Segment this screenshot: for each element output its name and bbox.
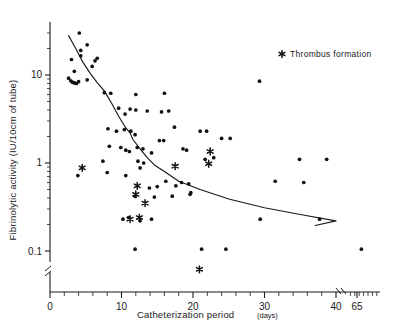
data-point-dot xyxy=(123,112,127,116)
axis-titles: Catheterization period (days) Fibrinolyt… xyxy=(7,80,278,320)
x-tick-label: 40 xyxy=(330,301,342,312)
data-point-dot xyxy=(148,186,152,190)
data-point-dot xyxy=(198,129,202,133)
data-points-asterisks xyxy=(79,148,213,273)
data-point-dot xyxy=(90,65,94,69)
data-point-dot xyxy=(119,146,123,150)
data-point-dot xyxy=(70,58,74,62)
data-point-dot xyxy=(77,31,81,35)
data-point-dot xyxy=(72,69,76,73)
legend-asterisk-marker xyxy=(279,51,285,58)
x-axis-break-icon xyxy=(336,288,346,294)
data-point-dot xyxy=(121,217,125,221)
data-point-dot xyxy=(167,109,171,113)
data-point-dot xyxy=(141,147,145,151)
data-point-dot xyxy=(220,137,224,141)
data-point-dot xyxy=(325,158,329,162)
data-point-dot xyxy=(85,43,89,47)
data-point-asterisk xyxy=(142,200,148,207)
data-point-dot xyxy=(298,158,302,162)
y-tick-label: 0.1 xyxy=(28,246,42,257)
x-tick-label: 0 xyxy=(47,301,53,312)
data-point-dot xyxy=(158,139,162,143)
legend-asterisk-icon xyxy=(279,51,285,58)
data-point-dot xyxy=(128,150,132,154)
x-axis-title: Catheterization period xyxy=(137,309,234,320)
data-point-dot xyxy=(135,146,139,150)
fit-curve-path xyxy=(69,36,336,226)
data-point-dot xyxy=(200,247,204,251)
data-point-dot xyxy=(174,184,178,188)
data-point-dot xyxy=(115,129,119,133)
chart-page: 1010.1 01020304065 Thrombus formation Ca… xyxy=(0,0,393,330)
data-point-dot xyxy=(134,93,138,97)
data-point-dot xyxy=(203,158,207,162)
data-point-asterisk xyxy=(172,163,178,170)
data-point-dot xyxy=(134,108,138,112)
data-point-dot xyxy=(117,106,121,110)
data-point-dot xyxy=(124,148,128,152)
x-axis-unit-label: (days) xyxy=(257,311,278,320)
data-point-dot xyxy=(187,182,191,186)
data-point-asterisk xyxy=(196,266,202,273)
data-point-dot xyxy=(273,179,277,183)
data-point-dot xyxy=(170,194,174,198)
data-point-dot xyxy=(153,195,157,199)
y-axis-title: Fibrinolytic activity (IU/10cm of tube) xyxy=(7,80,18,241)
data-point-dot xyxy=(76,174,80,178)
data-point-dot xyxy=(164,179,168,183)
scatter-plot: 1010.1 01020304065 Thrombus formation Ca… xyxy=(0,0,393,330)
x-tick-label: 10 xyxy=(116,301,128,312)
legend-label-thrombus: Thrombus formation xyxy=(290,49,371,59)
data-point-dot xyxy=(162,139,166,143)
data-point-dot xyxy=(173,125,177,129)
data-point-dot xyxy=(85,78,89,82)
data-point-dot xyxy=(181,147,185,151)
legend: Thrombus formation xyxy=(279,49,371,59)
data-point-dot xyxy=(180,181,184,185)
data-point-dot xyxy=(133,133,137,137)
data-point-dot xyxy=(318,217,322,221)
data-point-dot xyxy=(77,80,81,84)
data-point-dot xyxy=(95,56,99,60)
fit-curve-group xyxy=(69,36,336,226)
data-point-dot xyxy=(145,109,149,113)
data-points-dots xyxy=(67,31,364,251)
y-tick-label: 10 xyxy=(31,69,43,80)
data-point-dot xyxy=(79,49,83,53)
data-point-dot xyxy=(128,107,132,111)
data-point-dot xyxy=(123,128,127,132)
data-point-dot xyxy=(150,151,154,155)
data-point-dot xyxy=(109,91,113,95)
data-point-dot xyxy=(163,91,167,95)
data-point-dot xyxy=(212,156,216,160)
y-tick-label: 1 xyxy=(36,157,42,168)
data-point-dot xyxy=(224,247,228,251)
data-point-dot xyxy=(138,166,142,170)
data-point-asterisk xyxy=(206,160,212,167)
data-point-dot xyxy=(155,185,159,189)
data-point-dot xyxy=(107,144,111,148)
data-point-dot xyxy=(101,159,105,163)
data-point-dot xyxy=(258,217,262,221)
data-point-dot xyxy=(102,91,106,95)
data-point-dot xyxy=(105,171,109,175)
data-point-dot xyxy=(160,110,164,114)
data-point-asterisk xyxy=(134,182,140,189)
data-point-asterisk xyxy=(207,148,213,155)
data-point-dot xyxy=(302,181,306,185)
data-point-dot xyxy=(188,193,192,197)
data-point-dot xyxy=(258,79,262,83)
x-tick-label: 65 xyxy=(351,301,363,312)
data-point-dot xyxy=(150,217,154,221)
data-point-dot xyxy=(79,54,83,58)
data-point-dot xyxy=(129,129,133,133)
data-point-dot xyxy=(136,159,140,163)
data-point-asterisk xyxy=(79,164,85,171)
data-point-dot xyxy=(360,247,364,251)
y-axis-ticks: 1010.1 xyxy=(28,33,50,257)
data-point-dot xyxy=(124,174,128,178)
data-point-dot xyxy=(205,129,209,133)
data-point-dot xyxy=(228,137,232,141)
data-point-dot xyxy=(106,127,110,131)
